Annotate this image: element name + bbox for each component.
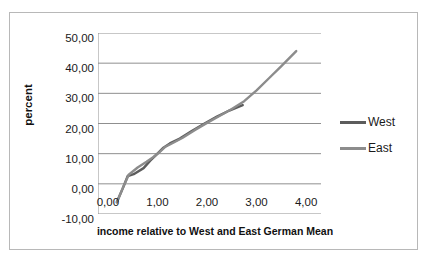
y-axis-title: percent — [22, 75, 34, 135]
y-tick-label: 0,00 — [72, 184, 94, 196]
x-tick-label: 2,00 — [196, 197, 218, 209]
legend-swatch-icon — [340, 147, 366, 150]
x-tick-label: 1,00 — [146, 197, 168, 209]
x-tick-label: 3,00 — [245, 197, 267, 209]
x-tick-label: 4,00 — [295, 197, 317, 209]
y-tick-label: 30,00 — [65, 93, 94, 105]
legend-label: West — [366, 116, 395, 128]
data-series-group — [117, 51, 296, 202]
legend-label: East — [366, 142, 392, 154]
plot-area — [98, 33, 321, 214]
x-axis-tick-labels: 0,001,002,003,004,00 — [98, 197, 321, 213]
legend-swatch-icon — [340, 121, 366, 124]
chart-legend: WestEast — [340, 109, 412, 161]
y-axis-tick-labels: 50,0040,0030,0020,0010,000,00-10,00 — [32, 25, 94, 230]
legend-entry-west[interactable]: West — [340, 109, 412, 135]
chart-figure-frame: 50,0040,0030,0020,0010,000,00-10,00 perc… — [9, 12, 418, 250]
series-line-east — [117, 51, 296, 202]
x-tick-label: 0,00 — [97, 197, 119, 209]
chart-plot-svg — [98, 33, 321, 214]
x-axis-title: income relative to West and East German … — [70, 225, 360, 237]
y-tick-label: 10,00 — [65, 154, 94, 166]
y-tick-label: 20,00 — [65, 124, 94, 136]
y-tick-label: 40,00 — [65, 63, 94, 75]
y-tick-label: 50,00 — [65, 33, 94, 45]
legend-entry-east[interactable]: East — [340, 135, 412, 161]
y-tick-label: -10,00 — [61, 214, 94, 226]
